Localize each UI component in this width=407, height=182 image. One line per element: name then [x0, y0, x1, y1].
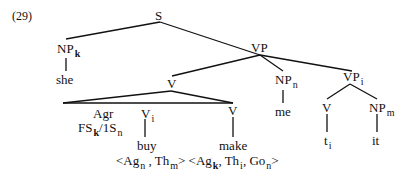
leaf-buy: buy	[137, 139, 157, 152]
node-index: m	[387, 107, 395, 118]
node-vp-i: VPi	[343, 70, 363, 84]
trace-index: i	[329, 140, 332, 151]
node-v-trace: V	[322, 101, 331, 114]
theta-index: n	[266, 160, 271, 171]
node-label: V	[141, 106, 150, 121]
theta-text: , Th	[145, 153, 169, 168]
feature-1s: /1S	[99, 120, 116, 135]
node-label: NP	[369, 100, 386, 115]
node-label: NP	[275, 72, 292, 87]
feature-index: k	[93, 127, 99, 138]
node-v-make: V	[228, 104, 237, 117]
theta-text: >	[271, 153, 278, 168]
theta-index: n	[140, 160, 145, 171]
theta-index: i	[240, 160, 243, 171]
theta-index: m	[170, 160, 178, 171]
node-index: n	[293, 79, 298, 90]
node-v-i: Vi	[141, 107, 154, 121]
theta-text: , Go	[243, 153, 265, 168]
leaf-it: it	[372, 134, 379, 147]
leaf-make: make	[219, 139, 247, 152]
feature-index: n	[117, 127, 122, 138]
node-s: S	[155, 9, 162, 22]
theta-text: , Th	[218, 153, 239, 168]
node-index: k	[75, 48, 81, 59]
theta-text: <Ag	[116, 153, 139, 168]
node-vp: VP	[251, 41, 268, 54]
node-v-complex: V	[167, 77, 176, 90]
agr-features: FSk/1Sn	[78, 121, 122, 135]
node-np-m: NPm	[369, 101, 394, 115]
node-label: NP	[57, 41, 74, 56]
node-index: i	[361, 76, 364, 87]
node-index: i	[151, 113, 154, 124]
theta-text: <Ag	[185, 153, 211, 168]
node-agr: Agr	[93, 107, 113, 120]
theta-index: k	[213, 160, 219, 171]
node-label: S	[155, 8, 162, 23]
node-label: VP	[343, 69, 360, 84]
leaf-trace: ti	[324, 134, 331, 148]
node-np-n: NPn	[275, 73, 298, 87]
leaf-me: me	[275, 105, 291, 118]
theta-grid: <Agn , Thm> <Agk, Thi, Gon>	[116, 154, 279, 168]
trace-label: t	[324, 133, 328, 148]
leaf-she: she	[56, 73, 73, 86]
node-np-k: NPk	[57, 42, 80, 56]
feature-fs: FS	[78, 120, 92, 135]
